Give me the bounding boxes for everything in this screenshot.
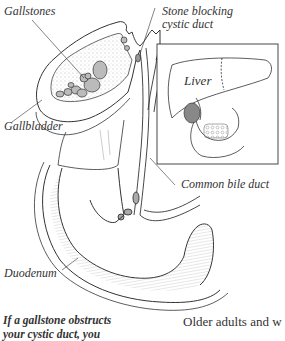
stomach-drawing — [58, 120, 124, 170]
liver-inset — [157, 44, 278, 164]
figure-caption-line2: your cystic duct, you — [3, 327, 111, 341]
stone-blocking-label-line2: cystic duct — [162, 18, 233, 31]
common-bile-duct-label: Common bile duct — [181, 178, 269, 191]
liver-label: Liver — [184, 73, 211, 89]
duodenum-label: Duodenum — [4, 267, 57, 280]
figure-caption-line1: If a gallstone obstructs — [3, 313, 111, 327]
stone-blocking-label: Stone blocking cystic duct — [162, 5, 233, 31]
figure-caption: If a gallstone obstructs your cystic duc… — [3, 313, 111, 341]
body-paragraph: Older adults and w — [183, 314, 282, 329]
gallbladder-label: Gallbladder — [4, 120, 63, 133]
gallstones-label: Gallstones — [4, 5, 55, 18]
